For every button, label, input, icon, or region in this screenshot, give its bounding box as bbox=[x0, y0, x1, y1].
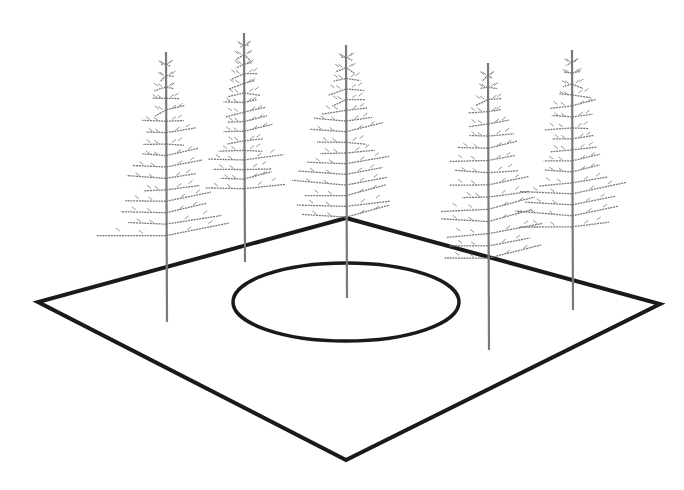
tree-2-icon bbox=[205, 33, 285, 262]
forest-plot-diagram bbox=[0, 0, 684, 490]
trees-front bbox=[97, 33, 626, 350]
square-plot-outline bbox=[38, 218, 660, 460]
tree-4-icon bbox=[441, 63, 542, 350]
tree-3-icon bbox=[292, 45, 390, 298]
